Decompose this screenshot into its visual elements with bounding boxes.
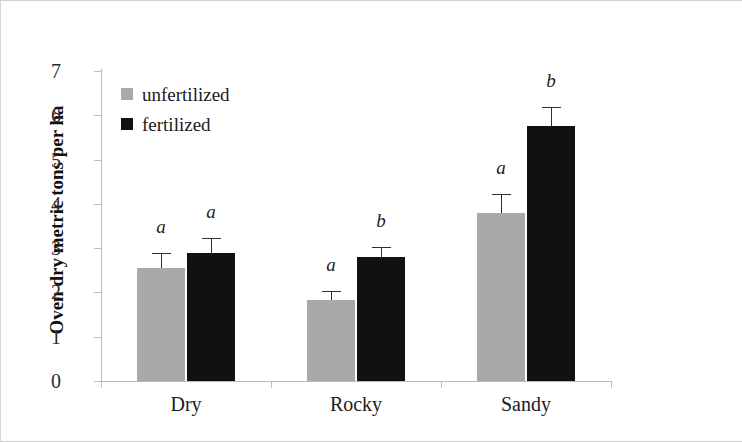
y-tick <box>94 160 102 161</box>
x-axis-line <box>101 381 611 382</box>
x-tick <box>441 381 442 388</box>
x-tick <box>101 381 102 388</box>
error-bar <box>331 291 332 300</box>
significance-letter: a <box>486 158 516 177</box>
error-bar <box>381 247 382 257</box>
bar-rocky-fertilized <box>357 257 405 381</box>
y-tick-label: 5 <box>31 150 61 170</box>
significance-letter: b <box>536 71 566 90</box>
error-bar <box>161 253 162 268</box>
bar-dry-fertilized <box>187 253 235 381</box>
y-tick-label: 6 <box>31 105 61 125</box>
error-bar <box>551 107 552 126</box>
x-axis-label-rocky: Rocky <box>296 393 416 416</box>
significance-letter: b <box>366 211 396 230</box>
x-axis-label-sandy: Sandy <box>466 393 586 416</box>
error-bar-cap <box>152 253 171 254</box>
legend-label-fertilized: fertilized <box>142 115 211 134</box>
y-tick <box>94 115 102 116</box>
legend-item-unfertilized: unfertilized <box>121 79 230 109</box>
error-bar <box>211 238 212 253</box>
y-tick-label: 4 <box>31 194 61 214</box>
x-axis-label-dry: Dry <box>126 393 246 416</box>
gray-square-icon <box>121 88 133 100</box>
y-tick <box>94 248 102 249</box>
y-tick <box>94 337 102 338</box>
y-tick-label: 2 <box>31 282 61 302</box>
error-bar-cap <box>372 247 391 248</box>
black-square-icon <box>121 118 133 130</box>
bar-sandy-fertilized <box>527 126 575 381</box>
significance-letter: a <box>196 202 226 221</box>
y-tick <box>94 292 102 293</box>
error-bar-cap <box>202 238 221 239</box>
significance-letter: a <box>316 255 346 274</box>
bar-rocky-unfertilized <box>307 300 355 381</box>
y-tick-label: 1 <box>31 327 61 347</box>
significance-letter: a <box>146 217 176 236</box>
bar-sandy-unfertilized <box>477 213 525 381</box>
error-bar-cap <box>542 107 561 108</box>
y-tick-label: 0 <box>31 371 61 391</box>
error-bar <box>501 194 502 213</box>
y-tick <box>94 71 102 72</box>
bar-dry-unfertilized <box>137 268 185 381</box>
y-tick-label: 3 <box>31 238 61 258</box>
y-tick <box>94 204 102 205</box>
legend-item-fertilized: fertilized <box>121 109 230 139</box>
x-tick <box>611 381 612 388</box>
y-tick-label: 7 <box>31 61 61 81</box>
x-tick <box>271 381 272 388</box>
chart-legend: unfertilized fertilized <box>121 79 230 139</box>
error-bar-cap <box>322 291 341 292</box>
legend-label-unfertilized: unfertilized <box>142 85 230 104</box>
figure-panel: Oven dry metric tons per ha 01234567 aaa… <box>0 0 742 442</box>
error-bar-cap <box>492 194 511 195</box>
bar-chart-plot: Oven dry metric tons per ha 01234567 aaa… <box>1 1 742 442</box>
